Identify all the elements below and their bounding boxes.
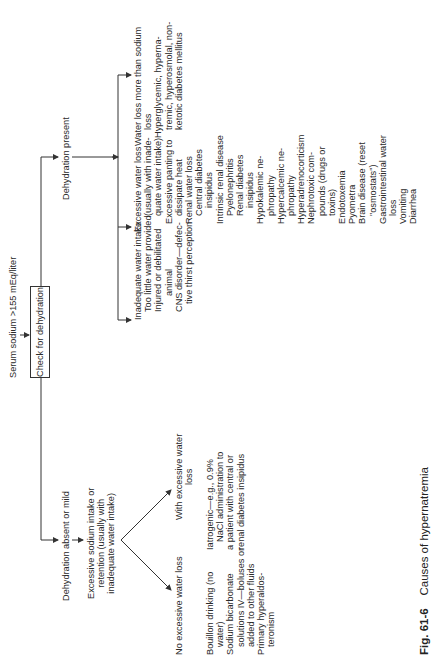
list-item: Hyperglycemic, hyperna- — [153, 22, 163, 146]
figure-number: Fig. 61-6 — [418, 608, 430, 655]
list-item: quate water intake) — [153, 135, 163, 232]
with-excessive-water-loss-label: With excessive water loss — [174, 434, 194, 520]
root-condition-label: Serum sodium >155 mEq/liter — [8, 257, 18, 378]
list-item: a patient with central or — [225, 452, 235, 550]
list-item: Primary hyperaldos- — [256, 548, 266, 655]
list-item: Sodium bicarbonate — [225, 548, 235, 655]
list-item: teronism — [266, 548, 276, 655]
list-item: tremic, hyperosmolal, non- — [164, 22, 174, 146]
rotated-figure-page: Serum sodium >155 mEq/liter Check for de… — [0, 0, 445, 661]
list-item: dissipate heat — [174, 135, 184, 232]
list-item: Water loss more than sodium — [133, 22, 143, 146]
list-item: renal diabetes insipidus — [236, 452, 246, 550]
list-item: Hypokalemic ne- — [255, 135, 265, 232]
list-item: phropathy — [286, 135, 296, 232]
list-item: Intrinsic renal disease — [215, 135, 225, 232]
dehydration-absent-label: Dehydration absent or mild — [61, 491, 71, 601]
list-item: Bouillon drinking (no — [205, 548, 215, 655]
no-excessive-water-loss-label: No excessive water loss — [174, 556, 184, 655]
label-line: loss — [184, 434, 194, 520]
list-item: loss — [143, 22, 153, 146]
list-item: Brain disease (reset — [357, 135, 367, 232]
list-item: Vomiting — [398, 135, 408, 232]
no-excess-loss-causes-list: Bouillon drinking (no water) Sodium bica… — [205, 548, 276, 655]
list-item: Hyperadrenocorticism — [296, 135, 306, 232]
list-item: Pyelonephritis — [225, 135, 235, 232]
list-item: Renal water loss — [184, 135, 194, 232]
dehydration-present-label: Dehydration present — [61, 117, 71, 200]
check-dehydration-label: Check for dehydration — [35, 287, 45, 377]
water-more-than-sodium-list: Water loss more than sodium loss Hypergl… — [133, 22, 184, 146]
figure-title: Causes of hypernatremia — [418, 467, 430, 595]
list-item: Renal diabetes — [235, 135, 245, 232]
list-item: (usually with inade- — [143, 135, 153, 232]
label-line: With excessive water — [174, 434, 184, 520]
with-excess-loss-causes-list: Iatrogenic—e.g., 0.9% NaCl administratio… — [205, 452, 246, 550]
excessive-water-loss-list: Excessive water loss (usually with inade… — [133, 135, 419, 232]
list-item: Excessive panting to — [164, 135, 174, 232]
list-item: solutions IV—boluses or — [236, 548, 246, 655]
list-item: insipidus — [245, 135, 255, 232]
figure-caption: Fig. 61-6 Causes of hypernatremia — [418, 467, 430, 655]
list-item: Iatrogenic—e.g., 0.9% — [205, 452, 215, 550]
list-item: Central diabetes — [194, 135, 204, 232]
list-item: toxins) — [327, 135, 337, 232]
check-dehydration-box: Check for dehydration — [30, 286, 50, 378]
list-item: added to other fluids — [246, 548, 256, 655]
list-item: water) — [215, 548, 225, 655]
list-item: Excessive water loss — [133, 135, 143, 232]
list-item: Hypercalcemic ne- — [276, 135, 286, 232]
list-item: phropathy — [266, 135, 276, 232]
list-item: Diarrhea — [408, 135, 418, 232]
cause-line: inadequate water intake) — [106, 488, 116, 599]
list-item: Endotoxemia — [337, 135, 347, 232]
cause-line: Excessive sodium intake or — [86, 488, 96, 599]
list-item: Pyometra — [347, 135, 357, 232]
list-item: NaCl administration to — [215, 452, 225, 550]
list-item: loss — [388, 135, 398, 232]
excessive-sodium-cause: Excessive sodium intake or retention (us… — [86, 488, 117, 599]
list-item: Gastrointestinal water — [378, 135, 388, 232]
list-item: ketotic diabetes mellitus — [174, 22, 184, 146]
list-item: Nephrotoxic com- — [306, 135, 316, 232]
list-item: "osmostats") — [368, 135, 378, 232]
list-item: insipidus — [204, 135, 214, 232]
cause-line: retention (usually with — [96, 488, 106, 599]
list-item: pounds (drugs or — [317, 135, 327, 232]
